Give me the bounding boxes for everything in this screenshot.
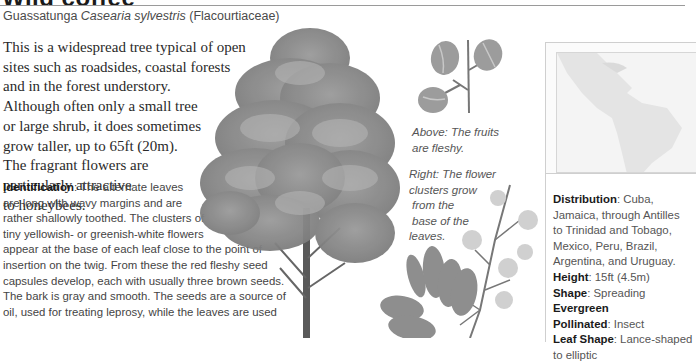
tree-illustration <box>200 18 400 338</box>
fact-label: Leaf Shape <box>553 333 614 345</box>
fact-value: Argentina, and Uruguay. <box>553 254 693 270</box>
fact-label: Pollinated <box>553 318 607 330</box>
fact-label: Shape <box>553 287 587 299</box>
distribution-fact: Distribution: Cuba, <box>553 192 693 208</box>
fruit-caption: Above: The fruits are fleshy. <box>412 125 499 156</box>
caption-line: Above: The fruits <box>412 125 499 141</box>
height-fact: Height: 15ft (4.5m) <box>553 270 693 286</box>
heading-rule <box>0 5 685 6</box>
fact-value: Mexico, Peru, Brazil, <box>553 239 693 255</box>
leaf-shape-fact: Leaf Shape: Lance-shaped <box>553 332 693 348</box>
distribution-map-frame <box>545 42 696 174</box>
fact-label: Distribution <box>553 193 617 205</box>
fact-label: Evergreen <box>553 302 609 314</box>
fact-value: : Cuba, <box>617 193 654 205</box>
fact-value: to elliptic <box>553 348 693 364</box>
fact-value: Jamaica, through Antilles <box>553 208 693 224</box>
sidebar-rule <box>545 172 546 342</box>
fact-value: : Lance-shaped <box>614 333 693 345</box>
evergreen-fact: Evergreen <box>553 301 693 317</box>
flower-branch-illustration <box>380 180 545 338</box>
ident-text: : The alternate leaves <box>74 181 183 193</box>
fact-label: Height <box>553 271 588 283</box>
identification-label: Identification <box>3 181 74 193</box>
fruit-illustration <box>405 35 505 120</box>
fact-value: : Insect <box>607 318 644 330</box>
scientific-name: Casearia sylvestris <box>81 9 186 23</box>
caption-line: are fleshy. <box>412 141 499 157</box>
distribution-map <box>556 52 696 173</box>
fact-value: : Spreading <box>587 287 645 299</box>
pollinated-fact: Pollinated: Insect <box>553 317 693 333</box>
common-name: Guassatunga <box>3 9 77 23</box>
fact-value: to Trinidad and Tobago, <box>553 223 693 239</box>
map-landmass <box>557 53 696 173</box>
shape-fact: Shape: Spreading <box>553 286 693 302</box>
facts-panel: Distribution: Cuba, Jamaica, through Ant… <box>553 192 693 364</box>
fact-value: : 15ft (4.5m) <box>588 271 649 283</box>
